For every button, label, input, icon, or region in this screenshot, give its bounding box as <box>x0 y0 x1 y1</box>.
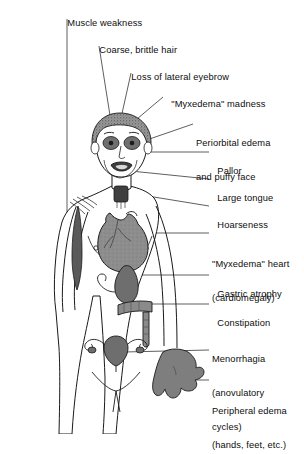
label-muscle-weakness: Muscle weakness <box>62 7 142 30</box>
body-outline <box>54 164 158 434</box>
pupil-left <box>109 141 114 146</box>
label-text: "Myxedema" madness <box>171 99 265 109</box>
ovary-left <box>88 347 96 353</box>
ear-left <box>91 142 99 154</box>
label-text-line1: Periorbital edema <box>196 138 270 149</box>
label-hoarseness: Hoarseness <box>212 209 268 232</box>
label-text: Large tongue <box>217 193 273 203</box>
label-text-line1: Menorrhagia <box>212 354 265 365</box>
arm-right-group <box>146 206 177 348</box>
ear-right <box>144 142 152 154</box>
thyroid-larynx-organ <box>114 186 128 202</box>
label-peripheral-edema: Peripheral edema (hands, feet, etc.) <box>212 383 287 454</box>
label-myxedema-heart: "Myxedema" heart (cardiomegaly) <box>212 236 289 316</box>
label-text: Gastric atrophy <box>217 289 281 299</box>
label-text: Hoarseness <box>217 220 268 230</box>
uterus-ovaries-menorrhagia <box>85 336 147 372</box>
label-constipation: Constipation <box>212 307 270 330</box>
label-text-line1: Peripheral edema <box>212 406 287 417</box>
label-text-line2: (hands, feet, etc.) <box>212 440 287 451</box>
hand-peripheral-edema <box>153 349 204 398</box>
label-text: Loss of lateral eyebrow <box>131 72 229 82</box>
label-pallor: Pallor <box>212 155 242 178</box>
label-text-line1: "Myxedema" heart <box>212 259 289 270</box>
arm-right-outline <box>156 206 177 348</box>
label-text: Constipation <box>217 318 270 328</box>
edematous-hand <box>153 349 204 398</box>
label-loss-lateral-eyebrow: Loss of lateral eyebrow <box>126 61 229 84</box>
label-text: Coarse, brittle hair <box>99 45 177 55</box>
label-gastric-atrophy: Gastric atrophy <box>212 278 282 301</box>
label-text: Pallor <box>217 166 241 176</box>
descending-colon <box>143 312 149 347</box>
ovary-right <box>136 347 144 353</box>
head-group <box>91 113 152 178</box>
label-text: Muscle weakness <box>67 18 142 28</box>
label-coarse-brittle-hair: Coarse, brittle hair <box>94 34 177 57</box>
label-large-tongue: Large tongue <box>212 182 273 205</box>
label-myxedema-madness: "Myxedema" madness <box>166 88 265 111</box>
pupil-right <box>130 141 135 146</box>
